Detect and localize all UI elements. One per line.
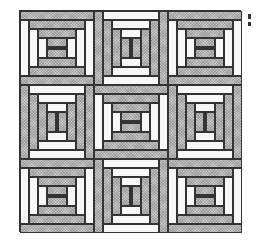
log-strip-left: [20, 168, 29, 224]
log-strip-right: [206, 112, 215, 132]
log-strip-left: [112, 177, 121, 215]
quilt-block-horizontal: [20, 159, 94, 233]
log-strip-bottom: [47, 132, 67, 141]
log-strip-top: [103, 11, 159, 20]
center-background: [56, 195, 58, 197]
log-strip-top: [38, 94, 76, 103]
log-strip-left: [186, 186, 195, 206]
log-strip-right: [224, 94, 233, 150]
quilt-block-vertical: [168, 85, 242, 159]
log-strip-left: [103, 20, 112, 76]
log-strip-bottom: [47, 197, 67, 206]
log-strip-left: [94, 11, 103, 85]
log-strip-left: [177, 29, 186, 67]
center-square: [130, 51, 132, 53]
log-strip-right: [58, 112, 67, 132]
log-strip-top: [56, 112, 58, 121]
log-strip-right: [159, 94, 168, 150]
log-strip-bottom: [177, 150, 233, 159]
quilt-block-horizontal: [20, 11, 94, 85]
log-strip-top: [130, 186, 132, 195]
quilt-block-vertical: [94, 11, 168, 85]
log-strip-left: [103, 103, 112, 141]
center-square: [130, 199, 132, 201]
log-strip-left: [38, 186, 47, 206]
log-strip-top: [121, 29, 141, 38]
log-strip-top: [121, 112, 141, 121]
log-strip-right: [141, 29, 150, 67]
log-strip-top: [47, 38, 67, 47]
log-strip-left: [186, 38, 195, 58]
log-strip-bottom: [195, 49, 215, 58]
log-strip-bottom: [195, 132, 215, 141]
log-strip-right: [215, 38, 224, 58]
center-background: [130, 47, 132, 49]
log-strip-right: [159, 159, 168, 233]
log-strip-bottom: [38, 141, 76, 150]
log-strip-right: [150, 103, 159, 141]
log-strip-top: [29, 168, 85, 177]
log-strip-bottom: [47, 49, 67, 58]
log-strip-bottom: [112, 132, 150, 141]
log-strip-bottom: [121, 58, 141, 67]
log-strip-bottom: [121, 123, 141, 132]
log-strip-left: [29, 94, 38, 150]
log-strip-bottom: [195, 197, 215, 206]
log-strip-right: [76, 177, 85, 215]
log-strip-top: [186, 29, 224, 38]
log-strip-left: [112, 112, 121, 132]
quilt-block-horizontal: [168, 159, 242, 233]
log-strip-bottom: [168, 76, 242, 85]
log-strip-bottom: [168, 224, 242, 233]
log-strip-top: [20, 11, 94, 20]
log-strip-top: [103, 94, 159, 103]
log-strip-right: [85, 85, 94, 159]
cropped-text-fragment: [248, 14, 252, 28]
log-strip-bottom: [20, 76, 94, 85]
log-strip-right: [150, 20, 159, 76]
log-strip-left: [47, 47, 56, 49]
quilt-block-horizontal: [94, 85, 168, 159]
log-strip-left: [94, 159, 103, 233]
log-strip-right: [224, 177, 233, 215]
log-strip-right: [141, 177, 150, 215]
log-strip-right: [233, 20, 242, 76]
log-strip-right: [67, 38, 76, 58]
log-strip-top: [38, 29, 76, 38]
log-strip-bottom: [29, 215, 85, 224]
log-strip-bottom: [29, 150, 85, 159]
log-strip-left: [38, 103, 47, 141]
log-strip-left: [195, 47, 204, 49]
center-background: [130, 121, 132, 123]
center-background: [56, 47, 58, 49]
log-strip-left: [47, 195, 56, 197]
log-strip-top: [186, 94, 224, 103]
log-strip-bottom: [103, 224, 159, 233]
center-square: [60, 47, 62, 49]
log-strip-left: [195, 195, 204, 197]
log-strip-bottom: [103, 76, 159, 85]
log-strip-left: [94, 94, 103, 150]
log-strip-top: [29, 85, 85, 94]
log-strip-top: [177, 168, 233, 177]
log-strip-right: [224, 29, 233, 67]
log-strip-right: [67, 103, 76, 141]
log-strip-left: [47, 112, 56, 132]
log-strip-top: [112, 168, 150, 177]
log-strip-top: [177, 20, 233, 29]
log-strip-left: [103, 168, 112, 224]
log-strip-left: [195, 112, 204, 132]
log-strip-bottom: [121, 206, 141, 215]
log-strip-right: [85, 168, 94, 224]
center-square: [60, 195, 62, 197]
log-strip-top: [121, 177, 141, 186]
log-strip-bottom: [38, 58, 76, 67]
log-strip-right: [141, 112, 150, 132]
center-square: [204, 125, 206, 127]
log-strip-bottom: [186, 141, 224, 150]
center-background: [204, 121, 206, 123]
log-strip-top: [195, 186, 215, 195]
log-strip-bottom: [186, 58, 224, 67]
quilt-grid: [19, 10, 241, 232]
log-strip-bottom: [20, 224, 94, 233]
